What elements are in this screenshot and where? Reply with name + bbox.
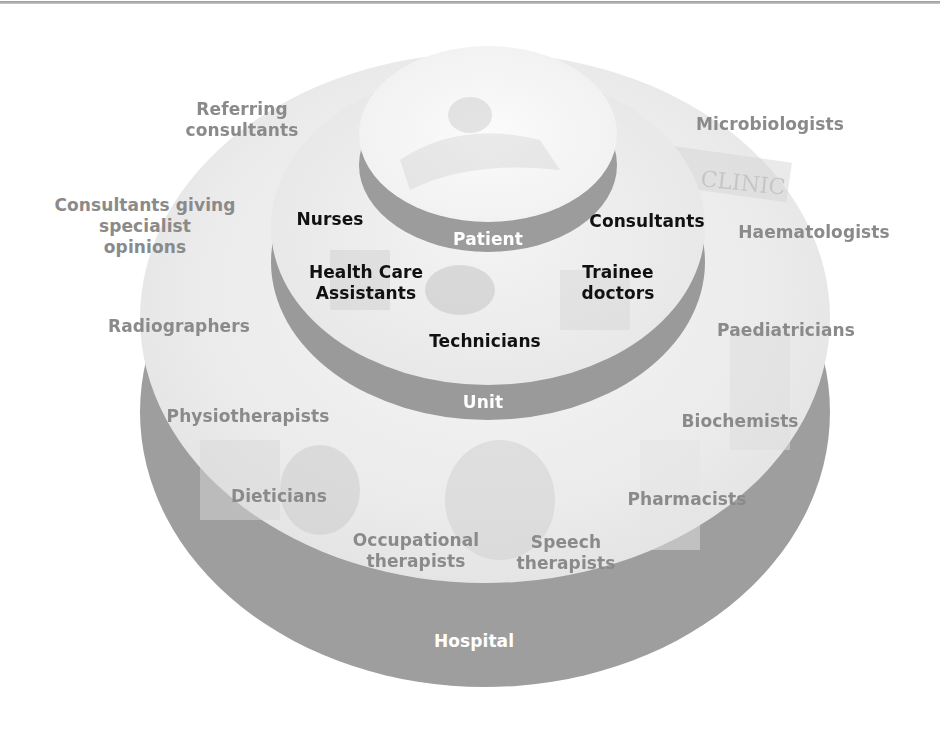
role-specialist-line1: Consultants giving	[46, 195, 244, 216]
role-technicians: Technicians	[420, 331, 550, 352]
tier-label-patient: Patient	[438, 229, 538, 250]
role-consultants: Consultants	[584, 211, 710, 232]
role-occupational-line2: therapists	[346, 551, 486, 572]
role-pharmacists: Pharmacists	[624, 489, 750, 510]
role-haematologists: Haematologists	[732, 222, 896, 243]
role-speech-therapists: Speech therapists	[510, 532, 622, 574]
role-occupational-line1: Occupational	[346, 530, 486, 551]
role-trainee-line2: doctors	[568, 283, 668, 304]
role-occupational-therapists: Occupational therapists	[346, 530, 486, 572]
role-referring-line2: consultants	[180, 120, 304, 141]
role-health-care-assistants: Health Care Assistants	[306, 262, 426, 304]
role-dieticians: Dieticians	[224, 486, 334, 507]
patient-tier	[359, 46, 617, 252]
role-specialist-line3: opinions	[46, 237, 244, 258]
role-physiotherapists: Physiotherapists	[160, 406, 336, 427]
role-trainee-doctors: Trainee doctors	[568, 262, 668, 304]
role-consultants-specialist-opinions: Consultants giving specialist opinions	[46, 195, 244, 258]
role-referring-consultants: Referring consultants	[180, 99, 304, 141]
role-specialist-line2: specialist	[46, 216, 244, 237]
role-microbiologists: Microbiologists	[688, 114, 852, 135]
role-referring-line1: Referring	[180, 99, 304, 120]
role-trainee-line1: Trainee	[568, 262, 668, 283]
role-speech-line2: therapists	[510, 553, 622, 574]
role-speech-line1: Speech	[510, 532, 622, 553]
tier-label-hospital: Hospital	[424, 631, 524, 652]
role-biochemists: Biochemists	[677, 411, 803, 432]
role-nurses: Nurses	[282, 209, 378, 230]
role-hca-line1: Health Care	[306, 262, 426, 283]
tiered-disc-diagram: CLINIC	[0, 0, 940, 731]
role-radiographers: Radiographers	[100, 316, 258, 337]
tier-label-unit: Unit	[433, 392, 533, 413]
role-paediatricians: Paediatricians	[712, 320, 860, 341]
role-hca-line2: Assistants	[306, 283, 426, 304]
